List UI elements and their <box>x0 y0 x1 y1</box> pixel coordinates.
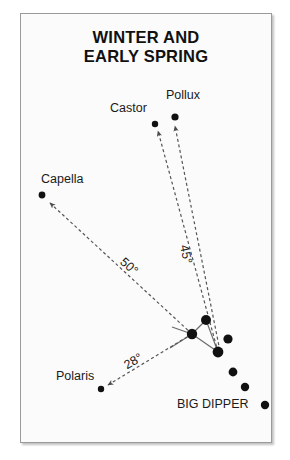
star-dot-dipper-lower <box>213 347 224 358</box>
pointer-line-to-pollux <box>175 126 221 356</box>
chart-canvas <box>0 0 290 460</box>
star-dot-dipper-right <box>223 334 232 343</box>
label-polaris: Polaris <box>56 369 94 383</box>
star-dot-capella <box>39 192 46 199</box>
label-castor: Castor <box>110 101 147 115</box>
star-dot-dipper-handle-3 <box>261 401 269 409</box>
star-dot-castor <box>152 121 158 127</box>
star-dot-dipper-hub <box>187 329 197 339</box>
pointer-lines <box>50 126 221 385</box>
title-line-2: EARLY SPRING <box>20 47 272 66</box>
label-big-dipper: BIG DIPPER <box>177 397 249 411</box>
star-dot-polaris <box>98 386 104 392</box>
star-dot-pollux <box>171 113 178 120</box>
chart-title: WINTER AND EARLY SPRING <box>20 28 272 66</box>
star-dots <box>39 113 270 409</box>
star-dot-dipper-upper <box>201 315 211 325</box>
title-line-1: WINTER AND <box>20 28 272 47</box>
star-dot-dipper-handle-2 <box>241 383 249 391</box>
star-dot-dipper-handle-1 <box>229 368 238 377</box>
label-pollux: Pollux <box>166 88 200 102</box>
star-chart: WINTER AND EARLY SPRING Castor Pollux Ca… <box>0 0 290 460</box>
label-capella: Capella <box>41 172 83 186</box>
